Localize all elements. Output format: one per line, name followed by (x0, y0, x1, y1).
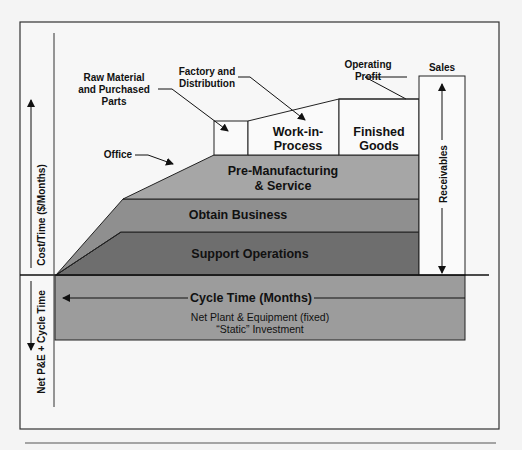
pre-manufacturing-label-line2: & Service (255, 179, 312, 193)
axis-upper-label: Cost/Time ($/Months) (36, 164, 47, 265)
axis-lower-label: Net P&E + Cycle Time (36, 290, 47, 394)
cycle-time-label: Cycle Time (Months) (190, 291, 312, 305)
receivables-label: Receivables (438, 145, 449, 203)
finished-goods-label-line2: Goods (359, 139, 399, 153)
support-operations-label: Support Operations (191, 247, 308, 261)
operating-profit-callout-line1: Operating (344, 59, 391, 70)
raw-material-box (214, 121, 248, 155)
cost-structure-diagram: Cost/Time ($/Months) Net P&E + Cycle Tim… (0, 0, 522, 450)
sales-label: Sales (429, 62, 456, 73)
finished-goods-label-line1: Finished (353, 125, 404, 139)
factory-callout-line2: Distribution (179, 78, 235, 89)
net-plant-label-line2: “Static” Investment (216, 323, 304, 335)
obtain-business-label: Obtain Business (189, 208, 288, 222)
raw-material-callout-line3: Parts (101, 96, 126, 107)
office-callout: Office (104, 149, 133, 160)
factory-callout-line1: Factory and (179, 66, 236, 77)
raw-material-callout-line1: Raw Material (83, 72, 144, 83)
raw-material-callout-line2: and Purchased (78, 84, 150, 95)
wip-label-line1: Work-in- (273, 125, 323, 139)
wip-label-line2: Process (274, 139, 323, 153)
pre-manufacturing-label: Pre-Manufacturing (228, 164, 338, 178)
net-plant-label-line1: Net Plant & Equipment (fixed) (191, 311, 329, 323)
